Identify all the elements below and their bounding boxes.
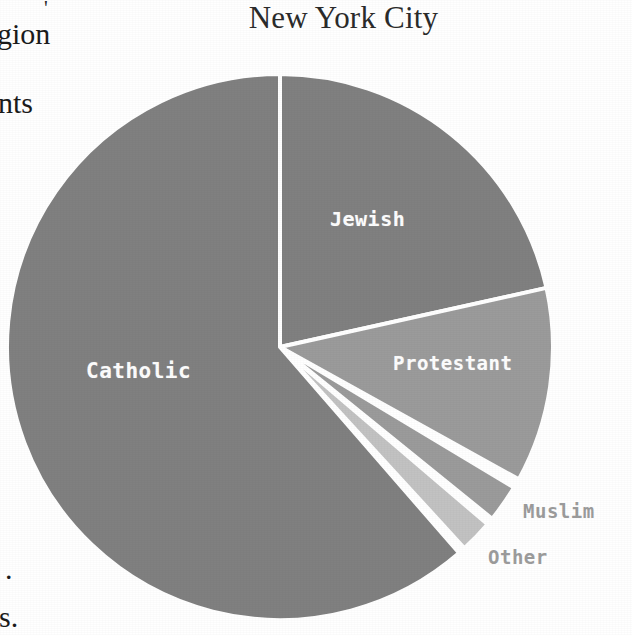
pie-label-catholic: Catholic: [86, 359, 191, 383]
pie-label-protestant: Protestant: [393, 352, 512, 374]
pie-slice-group: [7, 74, 553, 620]
pie-label-jewish: Jewish: [330, 207, 405, 231]
pie-label-other: Other: [488, 546, 548, 568]
pie-label-muslim: Muslim: [523, 500, 595, 522]
pie-chart-svg: [0, 0, 632, 635]
pie-chart: [0, 0, 632, 635]
